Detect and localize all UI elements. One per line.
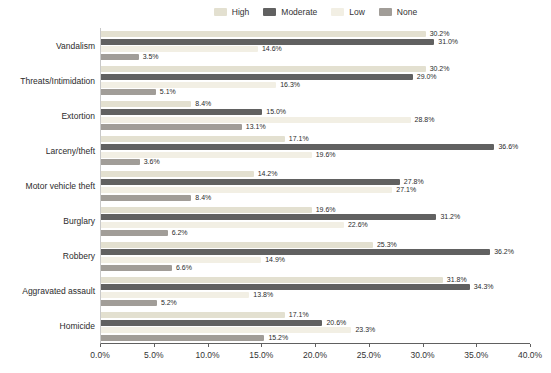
legend-label: High (232, 7, 249, 17)
category-label: Vandalism (0, 41, 95, 51)
x-axis-tick (369, 344, 370, 347)
value-label: 6.6% (176, 265, 192, 271)
x-axis-tick (423, 344, 424, 347)
x-axis-tick (100, 344, 101, 347)
value-label: 28.8% (415, 117, 435, 123)
bar-low-4 (101, 152, 312, 158)
x-tick-label: 0.0% (90, 350, 109, 360)
bar-moderate-8 (101, 284, 470, 290)
bar-low-9 (101, 327, 351, 333)
bar-high-4 (101, 136, 285, 142)
legend-label: Moderate (281, 7, 317, 17)
bar-low-3 (101, 117, 411, 123)
value-label: 23.3% (355, 327, 375, 333)
category-label: Motor vehicle theft (0, 181, 95, 191)
x-axis-tick (261, 344, 262, 347)
value-label: 13.1% (246, 124, 266, 130)
category-label: Robbery (0, 251, 95, 261)
bar-high-9 (101, 312, 285, 318)
x-tick-label: 5.0% (144, 350, 163, 360)
value-label: 14.2% (258, 171, 278, 177)
x-tick-label: 10.0% (195, 350, 219, 360)
bar-none-2 (101, 89, 156, 95)
bar-low-2 (101, 82, 276, 88)
x-tick-label: 15.0% (249, 350, 273, 360)
bar-none-7 (101, 265, 172, 271)
bar-high-8 (101, 277, 443, 283)
value-label: 27.8% (404, 179, 424, 185)
value-label: 16.3% (280, 82, 300, 88)
bar-chart: HighModerateLowNone 30.2%31.0%14.6%3.5%3… (0, 0, 551, 373)
legend-item-moderate: Moderate (263, 7, 317, 17)
value-label: 5.2% (161, 300, 177, 306)
bar-none-9 (101, 335, 264, 341)
value-label: 30.2% (430, 66, 450, 72)
value-label: 14.6% (262, 46, 282, 52)
category-label: Threats/Intimidation (0, 76, 95, 86)
bar-none-8 (101, 300, 157, 306)
bar-low-7 (101, 257, 261, 263)
x-tick-label: 30.0% (410, 350, 434, 360)
bar-high-1 (101, 31, 426, 37)
bar-high-2 (101, 66, 426, 72)
value-label: 36.2% (494, 249, 514, 255)
bar-high-5 (101, 171, 254, 177)
bar-none-6 (101, 230, 168, 236)
bar-moderate-2 (101, 74, 413, 80)
category-label: Homicide (0, 321, 95, 331)
value-label: 31.0% (438, 39, 458, 45)
value-label: 17.1% (289, 136, 309, 142)
value-label: 5.1% (160, 89, 176, 95)
legend-label: None (397, 7, 417, 17)
legend-item-low: Low (331, 7, 365, 17)
value-label: 3.6% (144, 159, 160, 165)
value-label: 19.6% (316, 207, 336, 213)
chart-legend: HighModerateLowNone (100, 7, 531, 17)
x-tick-label: 20.0% (303, 350, 327, 360)
x-tick-label: 40.0% (518, 350, 542, 360)
legend-swatch-moderate (263, 8, 276, 16)
bar-moderate-7 (101, 249, 490, 255)
bar-high-7 (101, 242, 373, 248)
bar-moderate-9 (101, 320, 322, 326)
value-label: 34.3% (474, 284, 494, 290)
bar-moderate-1 (101, 39, 434, 45)
value-label: 15.0% (266, 109, 286, 115)
value-label: 36.6% (498, 144, 518, 150)
x-axis-tick (208, 344, 209, 347)
value-label: 17.1% (289, 312, 309, 318)
legend-item-none: None (379, 7, 417, 17)
value-label: 25.3% (377, 242, 397, 248)
bar-none-1 (101, 54, 139, 60)
bar-none-5 (101, 195, 191, 201)
x-axis-tick (315, 344, 316, 347)
value-label: 8.4% (195, 101, 211, 107)
legend-swatch-none (379, 8, 392, 16)
bar-low-1 (101, 46, 258, 52)
x-tick-label: 35.0% (464, 350, 488, 360)
bar-high-3 (101, 101, 191, 107)
value-label: 31.2% (440, 214, 460, 220)
bar-moderate-4 (101, 144, 494, 150)
value-label: 20.6% (326, 320, 346, 326)
x-axis-tick (476, 344, 477, 347)
value-label: 31.8% (447, 277, 467, 283)
value-label: 30.2% (430, 31, 450, 37)
value-label: 19.6% (316, 152, 336, 158)
bar-low-6 (101, 222, 344, 228)
category-label: Burglary (0, 216, 95, 226)
x-tick-label: 25.0% (357, 350, 381, 360)
bar-low-5 (101, 187, 392, 193)
value-label: 6.2% (172, 230, 188, 236)
value-label: 15.2% (268, 335, 288, 341)
category-label: Extortion (0, 111, 95, 121)
value-label: 14.9% (265, 257, 285, 263)
bar-moderate-6 (101, 214, 436, 220)
legend-item-high: High (214, 7, 249, 17)
value-label: 27.1% (396, 187, 416, 193)
value-label: 3.5% (143, 54, 159, 60)
bar-none-3 (101, 124, 242, 130)
bar-none-4 (101, 159, 140, 165)
value-label: 29.0% (417, 74, 437, 80)
bar-low-8 (101, 292, 249, 298)
